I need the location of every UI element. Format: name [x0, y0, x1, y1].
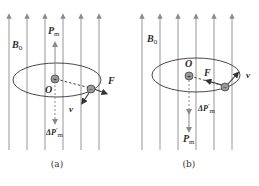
center-label: O [45, 84, 52, 95]
panel-caption: (b) [183, 159, 196, 169]
force-label: F [107, 75, 115, 86]
svg-text:−: − [89, 86, 93, 94]
panel-a: + − B0 Pm O F v ΔP′m (a) [9, 16, 115, 169]
svg-text:+: + [53, 76, 57, 84]
force-label: F [203, 67, 211, 78]
delta-moment-label: ΔP′m [45, 127, 64, 139]
electron: − [87, 85, 95, 94]
field-label: B0 [146, 33, 158, 46]
panel-b: + − B0 O F v ΔP′m Pm (b) [142, 16, 251, 169]
svg-text:+: + [187, 73, 191, 81]
velocity-arrow [83, 93, 89, 102]
center-label: O [185, 58, 192, 69]
magnetic-field-lines [142, 16, 232, 150]
field-label: B0 [11, 39, 23, 52]
positive-nucleus: + [51, 75, 59, 84]
moment-label: Pm [183, 133, 195, 146]
radius-dashed [56, 79, 90, 88]
electron: − [221, 83, 229, 92]
diamagnetism-diagram: + − B0 Pm O F v ΔP′m (a) + [0, 0, 259, 186]
force-arrow [208, 81, 222, 85]
velocity-label: v [69, 104, 74, 114]
delta-moment-label: ΔP′m [197, 103, 216, 115]
velocity-label: v [246, 70, 251, 80]
force-arrow [94, 89, 105, 93]
panel-caption: (a) [51, 159, 63, 169]
positive-nucleus: + [185, 72, 193, 81]
moment-label: Pm [48, 25, 60, 38]
svg-text:−: − [223, 84, 227, 92]
